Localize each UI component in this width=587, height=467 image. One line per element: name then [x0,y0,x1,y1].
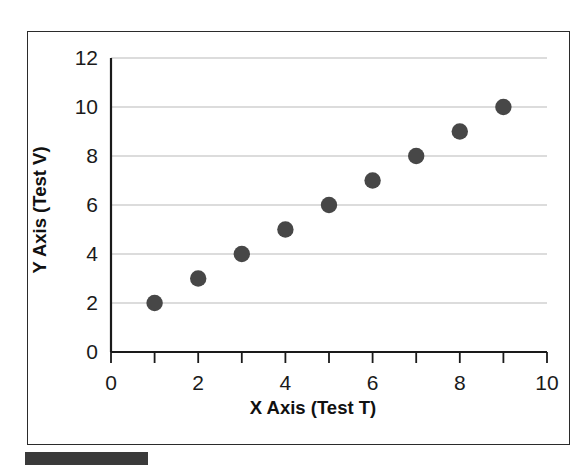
data-point [408,148,424,164]
y-tick-label-2: 2 [86,291,98,314]
x-tick-label-2: 2 [192,371,204,394]
y-tick-label-12: 12 [75,46,98,69]
chart-border: 0246810 024681012 X Axis (Test T) Y Axis… [27,31,570,445]
y-tick-label-4: 4 [86,242,98,265]
y-tick-label-8: 8 [86,144,98,167]
figure-root: 0246810 024681012 X Axis (Test T) Y Axis… [0,0,587,467]
gridlines [111,58,547,303]
data-point [495,99,511,115]
x-tick-label-10: 10 [535,371,558,394]
x-axis-ticks [111,352,547,363]
data-point [452,123,468,139]
data-point [234,246,250,262]
data-point [277,221,293,237]
y-tick-label-0: 0 [86,340,98,363]
x-tick-label-4: 4 [280,371,292,394]
scatter-chart: 0246810 024681012 X Axis (Test T) Y Axis… [28,32,569,444]
data-point [190,270,206,286]
data-point [146,295,162,311]
data-point [321,197,337,213]
x-tick-label-8: 8 [454,371,466,394]
data-point [364,172,380,188]
y-axis-tick-labels: 024681012 [75,46,99,363]
y-tick-label-6: 6 [86,193,98,216]
x-tick-label-6: 6 [367,371,379,394]
y-axis-title: Y Axis (Test V) [29,146,50,273]
x-tick-label-0: 0 [105,371,117,394]
x-axis-tick-labels: 0246810 [105,371,559,394]
x-axis-title: X Axis (Test T) [250,397,376,418]
y-tick-label-10: 10 [75,95,98,118]
redacted-caption-bar [25,452,148,465]
